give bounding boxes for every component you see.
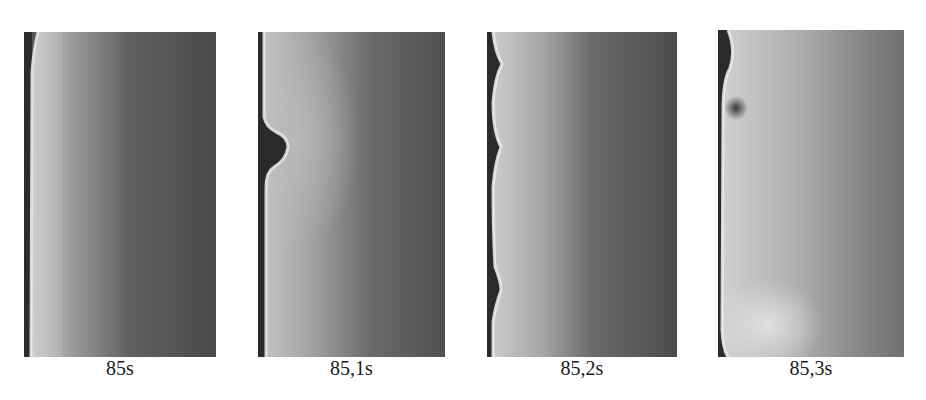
frame-caption-4: 85,3s [718,358,904,378]
frame-image-2 [258,32,445,357]
frame-image-4 [718,30,904,357]
frame-image-1 [24,32,216,357]
frame-panel-2 [258,32,445,357]
frame-image-3 [487,32,677,357]
frame-caption-2: 85,1s [258,358,445,378]
frame-panel-3 [487,32,677,357]
frame-panel-1 [24,32,216,357]
frame-caption-3: 85,2s [487,358,677,378]
frame-panel-4 [718,30,904,357]
frame-caption-1: 85s [24,358,216,378]
